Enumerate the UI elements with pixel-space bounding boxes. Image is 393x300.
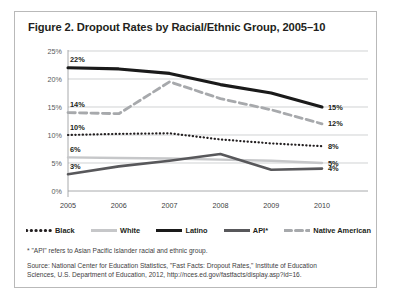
svg-text:2005: 2005 <box>60 201 76 210</box>
svg-text:2010: 2010 <box>314 201 330 210</box>
svg-text:3%: 3% <box>70 162 81 171</box>
svg-text:2007: 2007 <box>162 201 178 210</box>
figure-title: Figure 2. Dropout Rates by Racial/Ethnic… <box>28 21 325 33</box>
svg-text:15%: 15% <box>328 103 343 112</box>
legend-item-label: API* <box>253 226 268 235</box>
legend-item-white: White <box>91 226 140 235</box>
svg-text:4%: 4% <box>328 164 339 173</box>
x-axis-tick-labels: 200520062007200820092010 <box>60 201 330 210</box>
svg-text:2009: 2009 <box>263 201 279 210</box>
svg-text:2008: 2008 <box>212 201 228 210</box>
legend-swatch-icon <box>156 226 182 235</box>
legend-item-label: Black <box>55 226 75 235</box>
svg-text:0%: 0% <box>52 187 63 196</box>
source-line-2: Sciences, U.S. Department of Education, … <box>27 270 369 280</box>
svg-text:12%: 12% <box>328 119 343 128</box>
svg-text:20%: 20% <box>48 75 63 84</box>
figure-notes: * "API" refers to Asian Pacific Islander… <box>27 246 369 280</box>
svg-text:8%: 8% <box>328 142 339 151</box>
chart-series-layer <box>68 68 322 174</box>
legend-swatch-icon <box>26 226 52 235</box>
legend-item-latino: Latino <box>156 226 207 235</box>
source-line-1: Source: National Center for Education St… <box>27 261 369 271</box>
legend-item-nativeamerican: Native American <box>284 226 371 235</box>
svg-text:10%: 10% <box>48 131 63 140</box>
svg-text:6%: 6% <box>70 145 81 154</box>
legend-item-black: Black <box>26 226 75 235</box>
legend-item-label: Latino <box>185 226 207 235</box>
svg-text:15%: 15% <box>48 103 63 112</box>
svg-text:25%: 25% <box>48 47 63 56</box>
svg-text:2006: 2006 <box>111 201 127 210</box>
legend-item-label: White <box>120 226 140 235</box>
legend-item-api: API* <box>224 226 268 235</box>
chart-svg: 0%5%10%15%20%25% 22%15%14%12%10%8%6%5%3%… <box>21 43 372 223</box>
svg-text:22%: 22% <box>70 55 85 64</box>
dropout-rates-line-chart: 0%5%10%15%20%25% 22%15%14%12%10%8%6%5%3%… <box>21 43 372 223</box>
svg-text:5%: 5% <box>52 159 63 168</box>
y-axis-tick-labels: 0%5%10%15%20%25% <box>48 47 63 196</box>
series-line-nativeamerican <box>68 82 322 124</box>
legend-item-label: Native American <box>313 226 371 235</box>
svg-text:10%: 10% <box>70 123 85 132</box>
api-footnote: * "API" refers to Asian Pacific Islander… <box>27 246 369 256</box>
series-line-latino <box>68 68 322 107</box>
legend-swatch-icon <box>224 226 250 235</box>
svg-text:14%: 14% <box>70 100 85 109</box>
legend-swatch-icon <box>91 226 117 235</box>
chart-legend: BlackWhiteLatinoAPI*Native American <box>26 223 371 238</box>
figure-card: Figure 2. Dropout Rates by Racial/Ethnic… <box>14 11 377 288</box>
legend-swatch-icon <box>284 226 310 235</box>
